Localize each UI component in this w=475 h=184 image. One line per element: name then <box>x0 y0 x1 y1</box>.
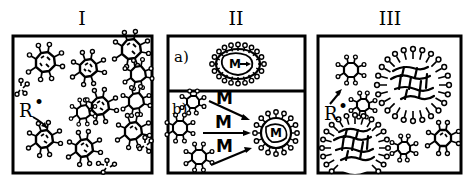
radical-dot: • <box>338 96 348 116</box>
panel-2-numeral: II <box>228 7 243 29</box>
radical-dot: • <box>34 92 44 112</box>
swollen-micelle-a: M <box>210 42 266 85</box>
figure-canvas: I II III <box>0 0 475 184</box>
monomer-label-product: M <box>270 126 282 140</box>
radical-letter: R <box>324 103 338 124</box>
monomer-label-a: M <box>229 57 241 71</box>
panel-1-numeral: I <box>78 7 86 29</box>
radical-letter: R <box>19 100 33 121</box>
monomer-label-b1: M <box>216 88 233 108</box>
subpanel-a-label: a) <box>174 48 189 66</box>
monomer-label-b2: M <box>215 112 232 132</box>
monomer-label-b3: M <box>216 136 233 156</box>
panel-3-numeral: III <box>379 7 402 29</box>
micelle-polymerization-diagram: I II III <box>0 0 475 184</box>
product-micelle-b: M <box>253 110 299 156</box>
